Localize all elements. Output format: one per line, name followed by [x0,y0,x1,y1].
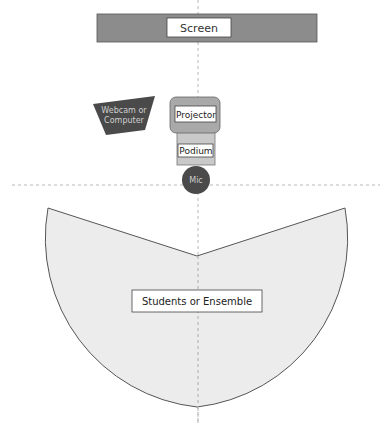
screen-label: Screen [180,22,218,35]
projector-label: Projector [176,110,216,120]
webcam-label-2: Computer [104,116,144,125]
projector: Projector [170,97,220,133]
students-or-ensemble-area: Students or Ensemble [45,208,347,423]
podium-label: Podium [179,146,212,156]
webcam-label-1: Webcam or [101,106,147,115]
podium: Podium [177,131,215,165]
audience-label: Students or Ensemble [142,296,252,307]
mic: Mic [182,166,210,194]
screen: Screen [97,14,317,42]
webcam-or-computer: Webcam or Computer [93,96,155,135]
classroom-diagram: Screen Webcam or Computer Podium Project… [0,0,386,423]
mic-label: Mic [189,176,203,185]
